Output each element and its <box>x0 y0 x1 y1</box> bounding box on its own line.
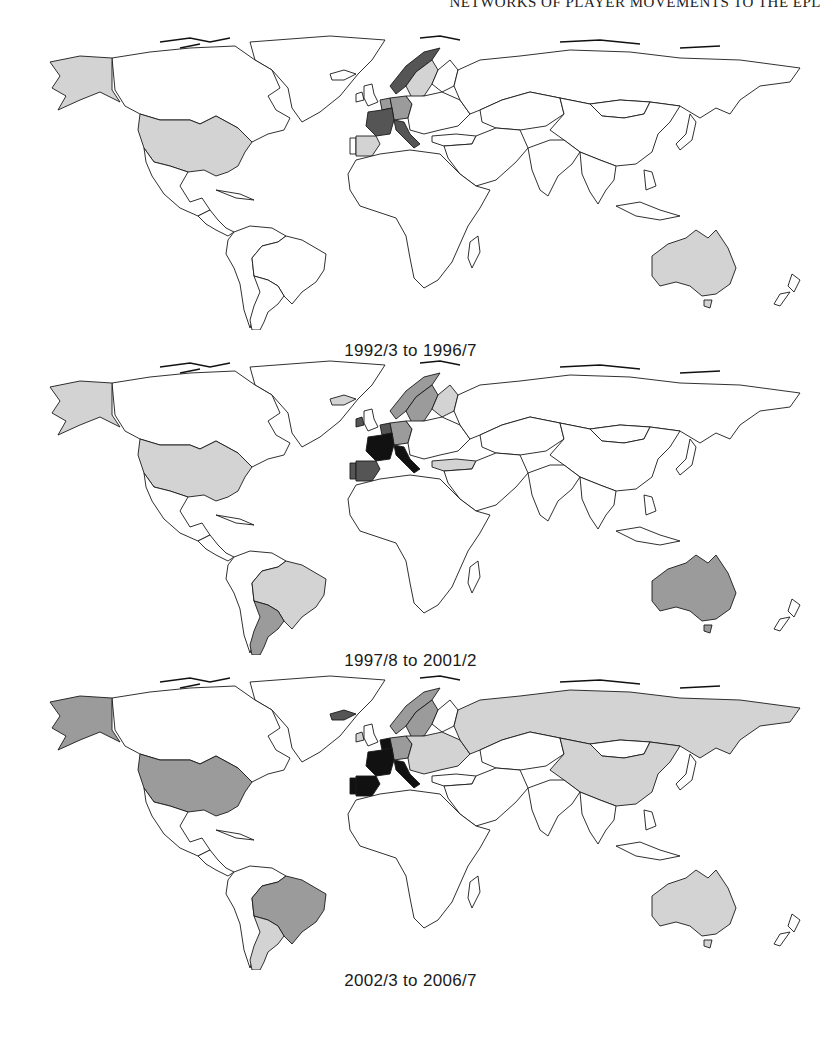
country-australia <box>652 230 736 308</box>
country-india <box>528 465 580 521</box>
country-ireland <box>356 417 364 427</box>
country-spain <box>356 776 380 796</box>
country-uk <box>364 409 378 431</box>
country-australia <box>652 870 736 948</box>
country-new-zealand <box>774 274 800 306</box>
country-new-zealand <box>774 599 800 631</box>
world-map <box>40 355 820 655</box>
map-panel-3 <box>40 670 820 970</box>
country-spain <box>356 136 380 156</box>
arctic-coastline <box>160 361 720 373</box>
map-panel-1 <box>40 30 820 330</box>
country-japan <box>676 114 696 150</box>
country-australia <box>652 555 736 633</box>
country-madagascar <box>468 236 480 268</box>
map-caption-2: 1997/8 to 2001/2 <box>0 651 821 671</box>
country-madagascar <box>468 876 480 908</box>
country-alaska <box>50 381 120 435</box>
country-france <box>366 108 394 136</box>
running-head: NETWORKS OF PLAYER MOVEMENTS TO THE EPL <box>0 0 821 11</box>
country-france <box>366 748 394 776</box>
country-india <box>528 140 580 196</box>
country-new-zealand <box>774 914 800 946</box>
country-spain <box>356 461 380 481</box>
country-alaska <box>50 56 120 110</box>
world-map <box>40 30 820 330</box>
country-ireland <box>356 732 364 742</box>
country-india <box>528 780 580 836</box>
country-madagascar <box>468 561 480 593</box>
country-portugal <box>350 138 356 154</box>
map-caption-3: 2002/3 to 2006/7 <box>0 971 821 991</box>
country-uk <box>364 724 378 746</box>
country-ireland <box>356 92 364 102</box>
country-japan <box>676 439 696 475</box>
country-uk <box>364 84 378 106</box>
arctic-coastline <box>160 36 720 48</box>
country-alaska <box>50 696 120 750</box>
map-panel-2 <box>40 355 820 655</box>
country-japan <box>676 754 696 790</box>
country-portugal <box>350 463 356 479</box>
world-map <box>40 670 820 970</box>
country-portugal <box>350 778 356 794</box>
country-france <box>366 433 394 461</box>
arctic-coastline <box>160 676 720 688</box>
